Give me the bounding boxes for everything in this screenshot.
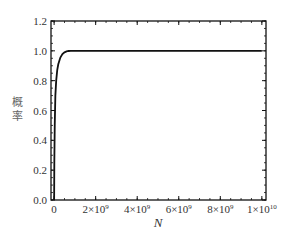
y-tick-label: 0.6 [33, 105, 47, 117]
x-tick-label: 6×109 [166, 203, 193, 215]
y-tick-label: 0.0 [33, 194, 47, 206]
y-tick-label: 0.4 [33, 134, 47, 146]
x-tick-label: 4×109 [124, 203, 151, 215]
plot-frame [51, 21, 266, 200]
probability-chart: 0.00.20.40.60.81.01.202×1094×1096×1098×1… [0, 0, 290, 242]
y-axis-label: 概 [12, 96, 23, 109]
y-tick-label: 0.2 [33, 164, 47, 176]
y-tick-label: 0.8 [33, 75, 47, 87]
y-axis-label-2: 率 [12, 109, 23, 123]
x-axis-label: N [153, 215, 164, 230]
y-tick-label: 1.0 [33, 45, 47, 57]
probability-curve [54, 51, 262, 200]
x-tick-label: 0 [51, 203, 57, 215]
x-tick-label: 2×109 [83, 203, 110, 215]
x-tick-label: 8×109 [207, 203, 234, 215]
x-tick-label: 1×1010 [247, 203, 277, 215]
y-tick-label: 1.2 [33, 15, 47, 27]
